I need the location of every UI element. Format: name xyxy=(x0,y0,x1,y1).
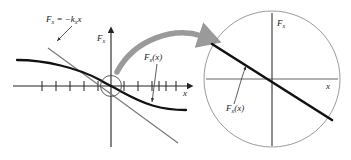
inset-y-axis-label: Fx xyxy=(276,18,286,29)
force-curve-label: Fx(x) xyxy=(143,52,162,63)
force-curve-label-leader xyxy=(152,64,157,102)
main-x-axis-label: x xyxy=(182,88,187,98)
force-displacement-figure: Fx x Fx = −kxx Fx(x) xyxy=(0,0,351,160)
tangent-line xyxy=(48,48,178,143)
figure-canvas: Fx x Fx = −kxx Fx(x) xyxy=(0,0,351,160)
main-y-axis-label: Fx xyxy=(96,33,106,44)
tangent-label-leader xyxy=(57,26,72,41)
inset-force-line-label: Fx(x) xyxy=(225,103,244,114)
tangent-line-label: Fx = −kxx xyxy=(45,14,82,25)
magnified-origin-inset: Fx x Fx(x) xyxy=(204,11,340,147)
inset-label-leader xyxy=(234,66,246,104)
inset-x-axis-label: x xyxy=(325,81,330,91)
